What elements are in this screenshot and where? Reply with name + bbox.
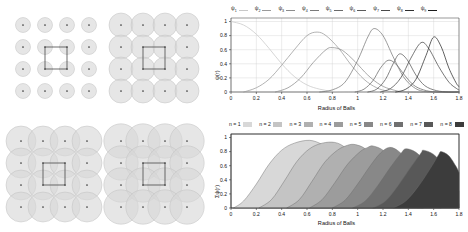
lattice-center-dot [20, 140, 22, 142]
legend-color-swatch [394, 122, 403, 127]
legend-item-psi-6[interactable]: ψ6 [350, 6, 367, 14]
lattice-center-dot [142, 90, 144, 92]
legend-gap [403, 124, 410, 125]
lattice-center-dot [66, 24, 68, 26]
y-tick-label: 0.2 [220, 191, 227, 197]
lattice-center-dot [120, 90, 122, 92]
y-tick-label: 0.4 [220, 177, 227, 183]
legend-label: ψ4 [302, 6, 308, 14]
lattice-center-dot [186, 206, 188, 208]
legend-item-n-4[interactable]: n = 4 [320, 122, 343, 127]
legend-item-psi-2[interactable]: ψ2 [255, 6, 272, 14]
legend-label: ψ6 [350, 6, 356, 14]
lattice-center-dot [164, 140, 166, 142]
legend-color-swatch [364, 122, 373, 127]
lattice-center-dot [120, 184, 122, 186]
y-tick-label: 1 [224, 18, 227, 24]
axes [231, 18, 459, 92]
legend-line-swatch [428, 10, 437, 11]
legend-item-n-3[interactable]: n = 3 [289, 122, 312, 127]
lattice-center-dot [22, 68, 24, 70]
legend-line-swatch [239, 10, 248, 11]
lattice-max-overlap-svg [100, 119, 208, 229]
y-tick-label: 0.8 [220, 32, 227, 38]
x-tick-label: 0.8 [329, 95, 336, 101]
lattice-center-dot [22, 90, 24, 92]
legend-line-swatch [262, 10, 271, 11]
lattice-center-dot [22, 24, 24, 26]
y-tick-label: 0.2 [220, 75, 227, 81]
x-tick-label: 0.4 [278, 95, 285, 101]
legend-item-psi-9[interactable]: ψ9 [421, 6, 438, 14]
y-tick-label: 0.6 [220, 47, 227, 53]
legend-gap [366, 10, 373, 11]
lattice-center-dot [120, 206, 122, 208]
x-tick-label: 0 [230, 95, 233, 101]
legend-gap [319, 10, 326, 11]
legend-item-n-8[interactable]: n = 8 [440, 122, 463, 127]
lattice-touching-svg [102, 4, 206, 112]
legend-line-swatch [381, 10, 390, 11]
legend-gap [343, 124, 350, 125]
lattice-center-dot [142, 24, 144, 26]
legend-item-psi-8[interactable]: ψ8 [397, 6, 414, 14]
legend-item-psi-1[interactable]: ψ1 [231, 6, 248, 14]
x-tick-label: 1.6 [430, 95, 437, 101]
lattice-center-dot [88, 24, 90, 26]
lattice-center-dot [20, 184, 22, 186]
legend-item-psi-7[interactable]: ψ7 [373, 6, 390, 14]
legend-label: n = 3 [289, 122, 301, 127]
lattice-panel-overlap [2, 119, 106, 229]
y-tick-label: 0.4 [220, 61, 227, 67]
lattice-center-dot [186, 68, 188, 70]
lattice-center-dot [142, 206, 144, 208]
x-tick-label: 1.8 [456, 211, 463, 217]
legend-item-psi-4[interactable]: ψ4 [302, 6, 319, 14]
legend-label: n = 1 [229, 122, 241, 127]
x-tick-label: 0.2 [253, 95, 260, 101]
legend-gap [295, 10, 302, 11]
lattice-center-dot [186, 46, 188, 48]
legend-color-swatch [334, 122, 343, 127]
legend-item-psi-5[interactable]: ψ5 [326, 6, 343, 14]
lattice-center-dot [186, 184, 188, 186]
lattice-center-dot [86, 140, 88, 142]
lattice-center-dot [88, 46, 90, 48]
lattice-center-dot [22, 46, 24, 48]
lattice-center-dot [86, 162, 88, 164]
lattice-center-dot [86, 206, 88, 208]
lattice-center-dot [20, 206, 22, 208]
x-tick-label: 1.2 [380, 211, 387, 217]
axis-title-y-psi: ψ(r) [214, 70, 220, 80]
legend-gap [433, 124, 440, 125]
legend-gap [271, 10, 278, 11]
legend-item-n-5[interactable]: n = 5 [350, 122, 373, 127]
legend-item-n-1[interactable]: n = 1 [229, 122, 252, 127]
legend-label: ψ9 [421, 6, 427, 14]
legend-item-n-2[interactable]: n = 2 [259, 122, 282, 127]
legend-label: n = 6 [380, 122, 392, 127]
legend-gap [414, 10, 421, 11]
lattice-touching-svg-balls [109, 13, 199, 103]
lattice-max-overlap-svg-balls [104, 124, 204, 224]
x-tick-label: 0.8 [329, 211, 336, 217]
legend-line-swatch [357, 10, 366, 11]
chart-psi-sum: n = 1n = 2n = 3n = 4n = 5n = 6n = 7n = 8… [207, 118, 466, 230]
legend-line-swatch [405, 10, 414, 11]
legend-gap [252, 124, 259, 125]
lattice-center-dot [64, 206, 66, 208]
psi-curves-svg: 00.20.40.60.811.21.41.61.800.20.40.60.81 [207, 2, 466, 114]
lattice-small-svg [6, 6, 106, 110]
legend-item-n-7[interactable]: n = 7 [410, 122, 433, 127]
legend-label: n = 7 [410, 122, 422, 127]
legend-gap [313, 124, 320, 125]
legend-item-n-6[interactable]: n = 6 [380, 122, 403, 127]
y-tick-label: 0 [224, 205, 227, 211]
legend-item-psi-3[interactable]: ψ3 [278, 6, 295, 14]
lattice-center-dot [120, 140, 122, 142]
x-tick-label: 0.6 [304, 95, 311, 101]
legend-gap [343, 10, 350, 11]
x-tick-label: 1.4 [405, 95, 412, 101]
lattice-center-dot [42, 206, 44, 208]
figure-root: ψ1ψ2ψ3ψ4ψ5ψ6ψ7ψ8ψ9 ψ(r) 00.20.40.60.811.… [0, 0, 468, 232]
